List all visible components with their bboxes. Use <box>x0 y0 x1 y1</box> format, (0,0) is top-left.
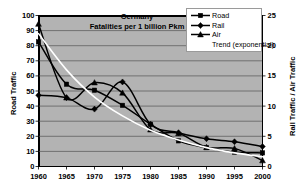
chart-container: Germany Fatalities per 1 billion Pkm Roa… <box>0 0 303 194</box>
x-tick-label: 2000 <box>249 172 277 181</box>
y-tick-label-left: 70 <box>5 56 35 65</box>
x-tick-label: 1960 <box>25 172 53 181</box>
x-tick-label: 1990 <box>193 172 221 181</box>
x-tick-label: 1965 <box>53 172 81 181</box>
legend-item-label: Rail <box>212 21 224 30</box>
legend-item[interactable]: Trend (exponential) <box>190 40 259 50</box>
chart-title-line2: Fatalities per 1 billion Pkm <box>78 22 196 32</box>
y-tick-label-left: 40 <box>5 102 35 111</box>
y-tick-label-right: 0 <box>268 162 286 171</box>
y-tick-label-left: 30 <box>5 117 35 126</box>
y-axis-label-right: Rail Traffic / Air Traffic <box>288 57 297 136</box>
y-tick-label-left: 10 <box>5 147 35 156</box>
y-tick-label-left: 50 <box>5 87 35 96</box>
x-tick-label: 1995 <box>221 172 249 181</box>
x-tick-label: 1985 <box>165 172 193 181</box>
legend-marker-triangle-icon <box>190 30 212 39</box>
y-tick-label-right: 5 <box>268 132 286 141</box>
legend-item[interactable]: Rail <box>190 21 259 31</box>
legend-marker-square-icon <box>190 11 212 20</box>
x-tick-label: 1970 <box>81 172 109 181</box>
legend-item[interactable]: Air <box>190 30 259 40</box>
y-tick-label-left: 0 <box>5 162 35 171</box>
y-tick-label-right: 25 <box>268 11 286 20</box>
x-tick-label: 1980 <box>137 172 165 181</box>
legend-item-label: Air <box>212 30 221 39</box>
legend-item[interactable]: Road <box>190 11 259 21</box>
y-tick-label-left: 80 <box>5 41 35 50</box>
x-tick-label: 1975 <box>109 172 137 181</box>
y-tick-label-left: 90 <box>5 26 35 35</box>
chart-title-line1: Germany <box>78 12 196 22</box>
chart-legend: RoadRailAirTrend (exponential) <box>186 8 262 52</box>
legend-marker-diamond-icon <box>190 21 212 30</box>
y-tick-label-right: 10 <box>268 102 286 111</box>
y-tick-label-left: 100 <box>5 11 35 20</box>
chart-title: Germany Fatalities per 1 billion Pkm <box>78 12 196 31</box>
y-tick-label-left: 60 <box>5 71 35 80</box>
legend-marker-none-icon <box>190 40 212 49</box>
y-tick-label-right: 15 <box>268 71 286 80</box>
legend-item-label: Trend (exponential) <box>212 40 274 49</box>
legend-item-label: Road <box>212 11 229 20</box>
y-tick-label-left: 20 <box>5 132 35 141</box>
